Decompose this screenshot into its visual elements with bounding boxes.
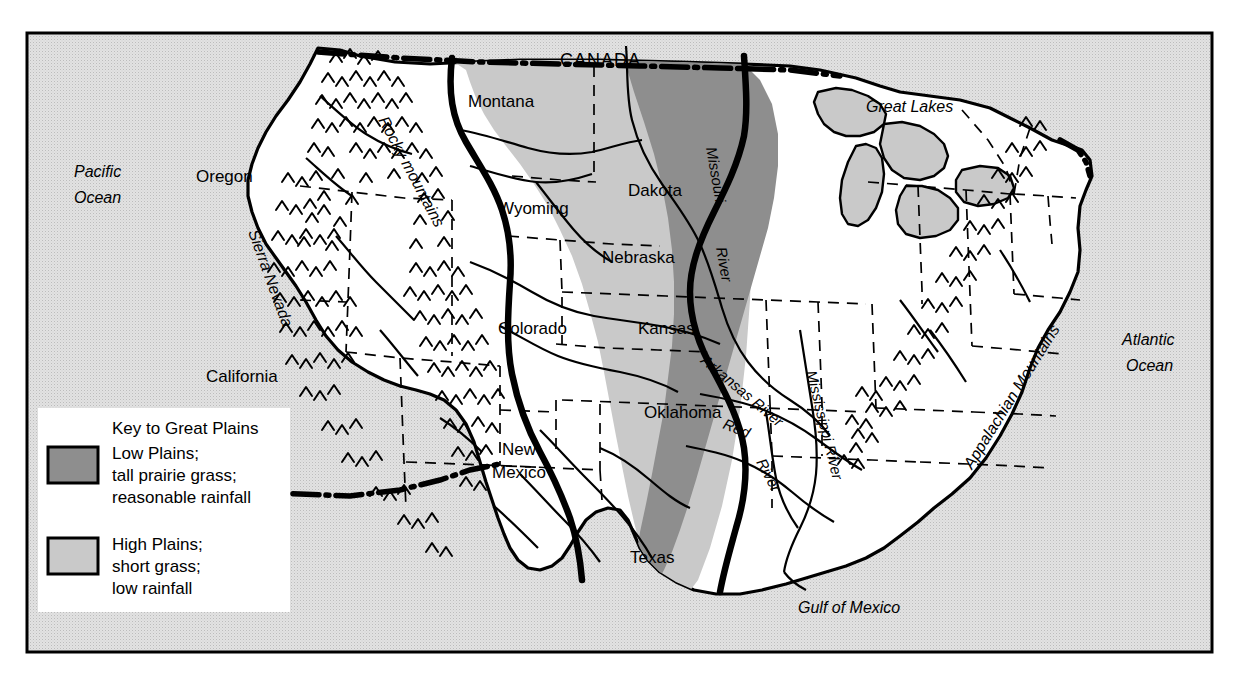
label-atlantic-ocean-line2: Ocean xyxy=(1126,357,1173,374)
legend-swatch-high-plains xyxy=(48,538,98,574)
label-pacific-ocean-line1: Pacific xyxy=(74,163,121,180)
label-atlantic-ocean-line1: Atlantic xyxy=(1121,331,1174,348)
label-colorado: Colorado xyxy=(498,319,567,338)
label-new-mexico-line1: New xyxy=(502,440,537,459)
label-oklahoma: Oklahoma xyxy=(644,403,722,422)
legend-high-plains-line1: High Plains; xyxy=(112,535,203,554)
legend-high-plains-line2: short grass; xyxy=(112,557,201,576)
legend: Key to Great Plains Low Plains; tall pra… xyxy=(38,408,290,612)
label-oregon: Oregon xyxy=(196,167,253,186)
legend-low-plains-line1: Low Plains; xyxy=(112,444,199,463)
label-kansas: Kansas xyxy=(638,319,695,338)
label-gulf-of-mexico: Gulf of Mexico xyxy=(798,599,900,616)
label-wyoming: Wyoming xyxy=(498,199,569,218)
label-texas: Texas xyxy=(630,548,674,567)
label-new-mexico-line2: Mexico xyxy=(492,463,546,482)
legend-low-plains-line3: reasonable rainfall xyxy=(112,488,251,507)
map-figure: CANADA Montana Oregon Wyoming Dakota Neb… xyxy=(0,0,1234,679)
legend-swatch-low-plains xyxy=(48,447,98,483)
label-canada: CANADA xyxy=(560,50,641,70)
label-pacific-ocean-line2: Ocean xyxy=(74,189,121,206)
us-great-plains-map: CANADA Montana Oregon Wyoming Dakota Neb… xyxy=(0,0,1234,679)
label-dakota: Dakota xyxy=(628,181,682,200)
label-montana: Montana xyxy=(468,92,535,111)
legend-title: Key to Great Plains xyxy=(112,419,258,438)
label-great-lakes: Great Lakes xyxy=(866,98,953,115)
legend-high-plains-line3: low rainfall xyxy=(112,579,192,598)
label-nebraska: Nebraska xyxy=(602,248,675,267)
legend-low-plains-line2: tall prairie grass; xyxy=(112,466,237,485)
label-california: California xyxy=(206,367,278,386)
